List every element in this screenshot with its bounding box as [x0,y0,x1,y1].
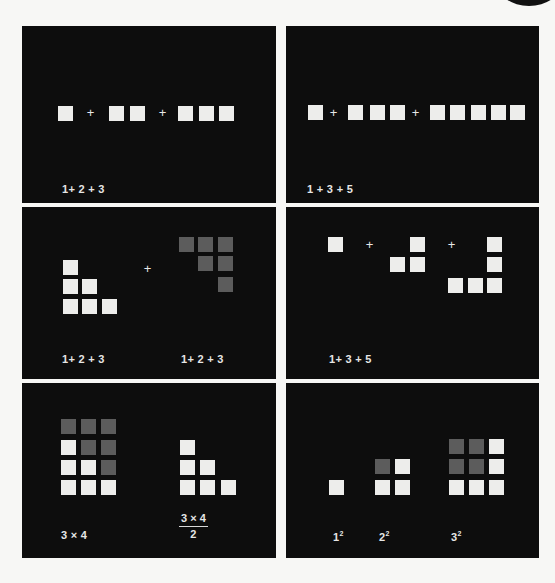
light-square [180,460,195,475]
light-square [58,106,73,121]
light-square [468,278,483,293]
plus-sign: + [157,106,168,119]
equation-label: 1+ 2 + 3 [181,353,224,365]
light-square [489,459,504,474]
light-square [370,105,385,120]
dark-square [218,256,233,271]
light-square [130,106,145,121]
light-square [200,460,215,475]
light-square [199,106,214,121]
light-square [489,439,504,454]
light-square [180,440,195,455]
panel-middle-left: +1+ 2 + 31+ 2 + 3 [22,207,276,379]
light-square [487,237,502,252]
light-square [450,105,465,120]
light-square [63,260,78,275]
plus-sign: + [142,262,153,275]
light-square [395,480,410,495]
light-square [178,106,193,121]
light-square [101,480,116,495]
light-square [487,257,502,272]
equation-label: 1+ 2 + 3 [62,353,105,365]
panel-bottom-right: 122232 [286,383,539,558]
dark-square [218,237,233,252]
light-square [61,440,76,455]
plus-sign: + [328,106,339,119]
dark-square [375,459,390,474]
light-square [102,299,117,314]
light-square [63,299,78,314]
plus-sign: + [364,238,375,251]
corner-black-circle [497,0,555,6]
plus-sign: + [446,238,457,251]
dark-square [179,237,194,252]
light-square [200,480,215,495]
light-square [82,299,97,314]
exponent: 2 [457,530,461,537]
light-square [308,105,323,120]
light-square [449,480,464,495]
light-square [390,105,405,120]
fraction-denominator: 2 [190,527,196,540]
dark-square [469,459,484,474]
light-square [221,480,236,495]
dark-square [61,419,76,434]
dark-square [218,277,233,292]
dark-square [101,419,116,434]
dark-square [198,237,213,252]
light-square [61,480,76,495]
light-square [469,480,484,495]
dark-square [101,460,116,475]
dark-square [198,256,213,271]
light-square [348,105,363,120]
exponent: 2 [339,530,343,537]
light-square [390,257,405,272]
light-square [448,278,463,293]
light-square [219,106,234,121]
light-square [109,106,124,121]
dark-square [469,439,484,454]
plus-sign: + [85,106,96,119]
light-square [63,279,78,294]
equation-label: 32 [451,530,462,543]
equation-label: 3 × 4 [61,529,87,541]
light-square [328,237,343,252]
equation-label: 1 + 3 + 5 [307,183,353,195]
dark-square [101,440,116,455]
light-square [510,105,525,120]
fraction-numerator: 3 × 4 [179,512,208,527]
panel-top-right: ++1 + 3 + 5 [286,26,539,203]
light-square [471,105,486,120]
dark-square [81,419,96,434]
equation-label: 1+ 2 + 3 [62,183,105,195]
fraction-label: 3 × 42 [179,512,208,540]
equation-label: 1+ 3 + 5 [329,353,372,365]
light-square [489,480,504,495]
light-square [410,237,425,252]
panel-bottom-left: 3 × 43 × 42 [22,383,276,558]
dark-square [449,439,464,454]
light-square [430,105,445,120]
dark-square [81,440,96,455]
dark-square [449,459,464,474]
exponent: 2 [385,530,389,537]
light-square [375,480,390,495]
plus-sign: + [410,106,421,119]
light-square [61,460,76,475]
panel-top-left: ++1+ 2 + 3 [22,26,276,203]
panel-middle-right: ++1+ 3 + 5 [286,207,539,379]
light-square [81,480,96,495]
light-square [395,459,410,474]
equation-label: 22 [379,530,390,543]
equation-label: 12 [333,530,344,543]
light-square [329,480,344,495]
light-square [81,460,96,475]
light-square [487,278,502,293]
light-square [410,257,425,272]
light-square [491,105,506,120]
light-square [180,480,195,495]
light-square [82,279,97,294]
